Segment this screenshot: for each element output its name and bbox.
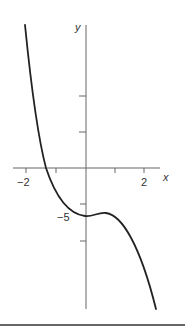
x-ticks bbox=[26, 168, 144, 173]
chart-canvas: y x −2 2 −5 bbox=[0, 0, 185, 327]
x-tick-label-neg2: −2 bbox=[17, 176, 30, 188]
y-axis-label: y bbox=[74, 21, 82, 33]
x-tick-label-2: 2 bbox=[141, 176, 147, 188]
x-axis-label: x bbox=[162, 171, 169, 183]
function-curve bbox=[25, 25, 156, 309]
y-intercept-label: −5 bbox=[57, 211, 70, 223]
